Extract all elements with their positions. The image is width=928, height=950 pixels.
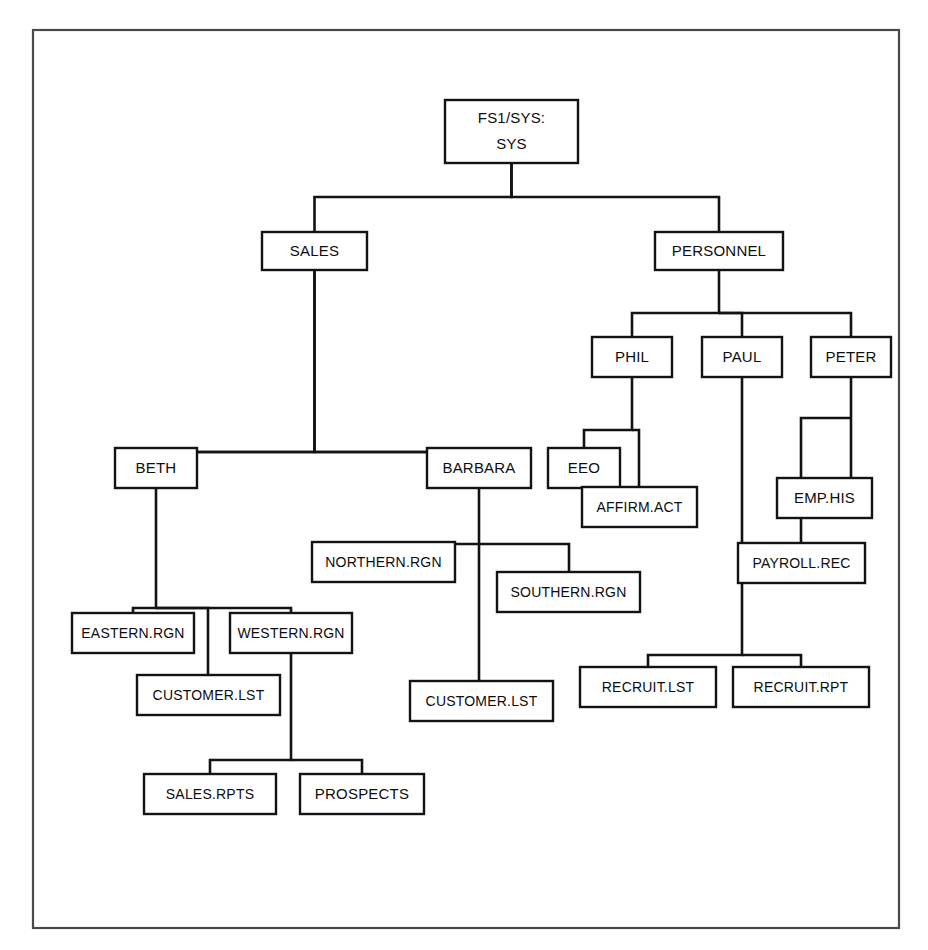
node-label-root-line1: FS1/SYS:: [478, 109, 545, 126]
node-label-prospects: PROSPECTS: [315, 785, 409, 802]
node-beth[interactable]: BETH: [115, 448, 197, 488]
connector-western-to-prospects: [291, 760, 362, 774]
node-label-root-line2: SYS: [496, 135, 527, 152]
node-cust2[interactable]: CUSTOMER.LST: [410, 681, 553, 721]
node-label-recruitrpt: RECRUIT.RPT: [754, 679, 849, 695]
connector-barbara-to-southern: [479, 544, 569, 572]
node-peter[interactable]: PETER: [811, 337, 891, 377]
node-phil[interactable]: PHIL: [592, 337, 672, 377]
directory-tree-diagram: FS1/SYS:SYSSALESPERSONNELPHILPAULPETERBE…: [0, 0, 928, 950]
node-label-recruitlst: RECRUIT.LST: [602, 679, 695, 695]
node-recruitrpt[interactable]: RECRUIT.RPT: [733, 667, 869, 707]
node-label-beth: BETH: [136, 459, 177, 476]
node-label-eeo: EEO: [568, 459, 600, 476]
node-eeo[interactable]: EEO: [548, 448, 620, 488]
connector-sales-to-barbara: [315, 270, 480, 452]
node-root[interactable]: FS1/SYS:SYS: [445, 100, 578, 163]
node-cust1[interactable]: CUSTOMER.LST: [137, 675, 280, 715]
node-label-paul: PAUL: [723, 348, 762, 365]
node-label-cust1: CUSTOMER.LST: [153, 687, 265, 703]
node-label-eastern: EASTERN.RGN: [81, 625, 184, 641]
node-eastern[interactable]: EASTERN.RGN: [72, 613, 194, 653]
node-payroll[interactable]: PAYROLL.REC: [738, 543, 865, 583]
node-label-northern: NORTHERN.RGN: [325, 554, 441, 570]
connector-beth-to-eastern: [133, 488, 156, 613]
node-southern[interactable]: SOUTHERN.RGN: [497, 572, 640, 612]
node-paul[interactable]: PAUL: [702, 337, 782, 377]
connector-root-to-sales: [315, 163, 512, 232]
node-label-emphis: EMP.HIS: [794, 489, 855, 506]
node-label-payroll: PAYROLL.REC: [752, 555, 850, 571]
node-sales[interactable]: SALES: [262, 232, 367, 270]
connector-sales-to-beth: [156, 270, 315, 452]
connector-phil-to-affirm: [632, 430, 639, 487]
connector-personnel-to-phil: [632, 270, 719, 337]
node-label-salesrpts: SALES.RPTS: [166, 786, 254, 802]
node-label-sales: SALES: [290, 242, 339, 259]
connector-personnel-to-paul: [719, 313, 742, 337]
connector-paul-to-recruitrpt: [742, 655, 801, 667]
node-emphis[interactable]: EMP.HIS: [777, 478, 872, 518]
node-personnel[interactable]: PERSONNEL: [655, 232, 783, 270]
connector-root-to-personnel: [512, 163, 720, 232]
node-label-cust2: CUSTOMER.LST: [426, 693, 538, 709]
node-label-affirm: AFFIRM.ACT: [597, 499, 683, 515]
node-label-barbara: BARBARA: [442, 459, 515, 476]
node-label-western: WESTERN.RGN: [237, 625, 344, 641]
node-affirm[interactable]: AFFIRM.ACT: [582, 487, 697, 527]
node-label-phil: PHIL: [615, 348, 649, 365]
tree-canvas: FS1/SYS:SYSSALESPERSONNELPHILPAULPETERBE…: [0, 0, 928, 950]
node-western[interactable]: WESTERN.RGN: [230, 613, 352, 653]
node-label-southern: SOUTHERN.RGN: [511, 584, 627, 600]
node-salesrpts[interactable]: SALES.RPTS: [144, 774, 276, 814]
connector-personnel-to-peter: [719, 313, 851, 337]
node-northern[interactable]: NORTHERN.RGN: [312, 542, 455, 582]
connector-phil-to-eeo: [584, 377, 632, 448]
node-label-personnel: PERSONNEL: [672, 242, 766, 259]
node-label-peter: PETER: [825, 348, 876, 365]
node-prospects[interactable]: PROSPECTS: [300, 774, 424, 814]
node-boxes-group: FS1/SYS:SYSSALESPERSONNELPHILPAULPETERBE…: [72, 100, 891, 814]
connector-barbara-to-northern: [384, 488, 479, 544]
node-recruitlst[interactable]: RECRUIT.LST: [580, 667, 716, 707]
node-barbara[interactable]: BARBARA: [427, 448, 531, 488]
